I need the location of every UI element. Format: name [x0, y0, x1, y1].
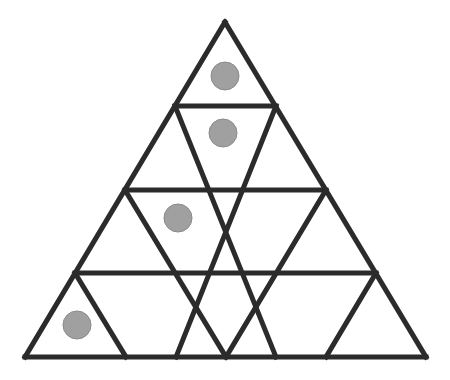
counter-row-3: [164, 204, 192, 232]
figure-canvas: [0, 0, 450, 380]
counter-row-4: [63, 311, 91, 339]
triangle-diagram: [0, 0, 450, 380]
counter-row-1: [211, 62, 239, 90]
counter-row-2: [209, 119, 237, 147]
